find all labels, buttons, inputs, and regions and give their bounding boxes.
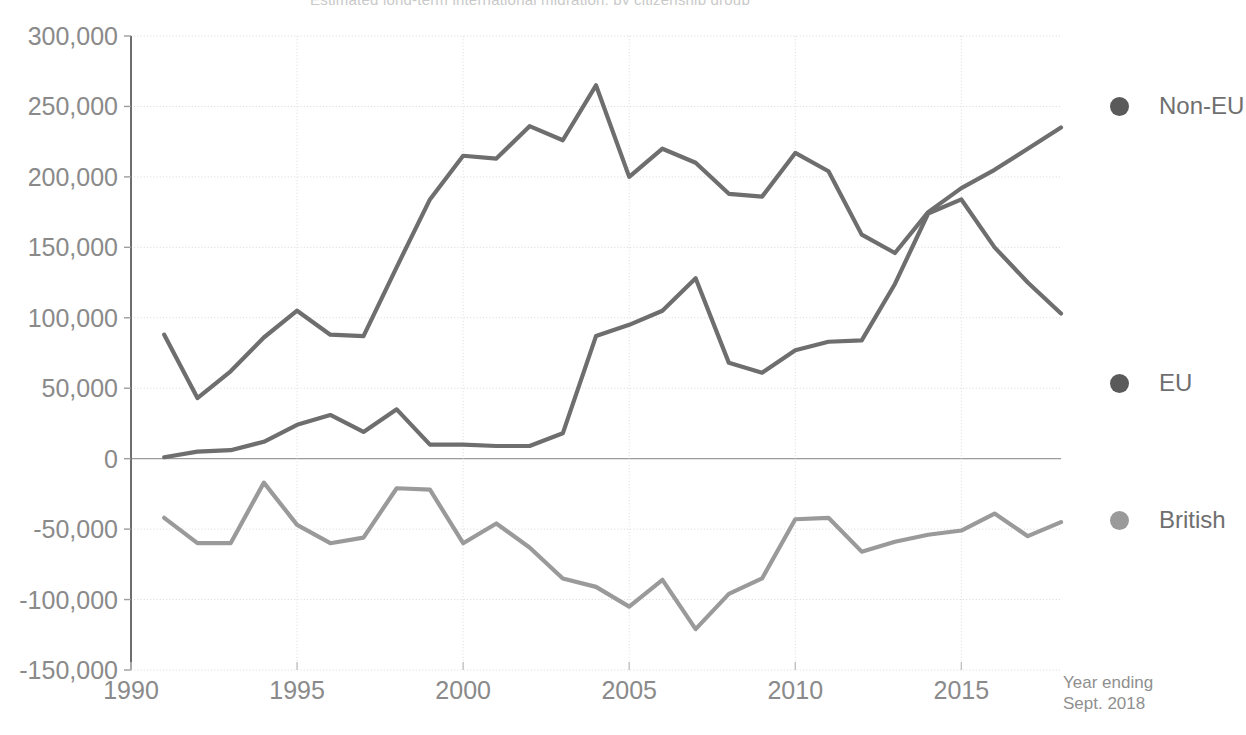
legend-marker-icon xyxy=(1110,511,1129,530)
y-axis-tick-label: -50,000 xyxy=(0,515,118,544)
legend-item-label: Non-EU xyxy=(1159,92,1244,120)
plot-area xyxy=(131,36,1061,670)
migration-line-chart: Estimated long-term international migrat… xyxy=(0,0,1246,735)
legend-item-british[interactable]: British xyxy=(1110,506,1226,534)
legend-item-label: British xyxy=(1159,506,1226,534)
legend-marker-icon xyxy=(1110,374,1129,393)
y-axis-tick-label: -100,000 xyxy=(0,585,118,614)
x-axis-tick-label: 2015 xyxy=(934,676,990,705)
y-axis-tick-label: -150,000 xyxy=(0,656,118,685)
series-line-eu xyxy=(164,199,1061,457)
x-axis-note-line2: Sept. 2018 xyxy=(1063,693,1153,714)
y-axis-tick-label: 50,000 xyxy=(0,374,118,403)
chart-title: Estimated long-term international migrat… xyxy=(0,0,1060,5)
x-axis-tick-label: 2005 xyxy=(601,676,657,705)
legend-item-label: EU xyxy=(1159,369,1192,397)
y-axis-tick-label: 150,000 xyxy=(0,233,118,262)
plot-svg xyxy=(131,36,1061,670)
y-axis-tick-label: 0 xyxy=(0,444,118,473)
legend-item-eu[interactable]: EU xyxy=(1110,369,1192,397)
x-axis-note-line1: Year ending xyxy=(1063,672,1153,693)
x-axis-note: Year ending Sept. 2018 xyxy=(1063,672,1153,715)
x-axis-tick-label: 2000 xyxy=(435,676,491,705)
y-axis-tick-label: 250,000 xyxy=(0,92,118,121)
y-axis-tick-label: 100,000 xyxy=(0,303,118,332)
series-line-british xyxy=(164,483,1061,630)
x-axis-tick-label: 1995 xyxy=(269,676,325,705)
legend-marker-icon xyxy=(1110,97,1129,116)
x-axis-tick-label: 1990 xyxy=(103,676,159,705)
y-axis-tick-label: 300,000 xyxy=(0,22,118,51)
series-line-non-eu xyxy=(164,85,1061,398)
legend-item-non-eu[interactable]: Non-EU xyxy=(1110,92,1244,120)
x-axis-tick-label: 2010 xyxy=(767,676,823,705)
y-axis-tick-label: 200,000 xyxy=(0,162,118,191)
